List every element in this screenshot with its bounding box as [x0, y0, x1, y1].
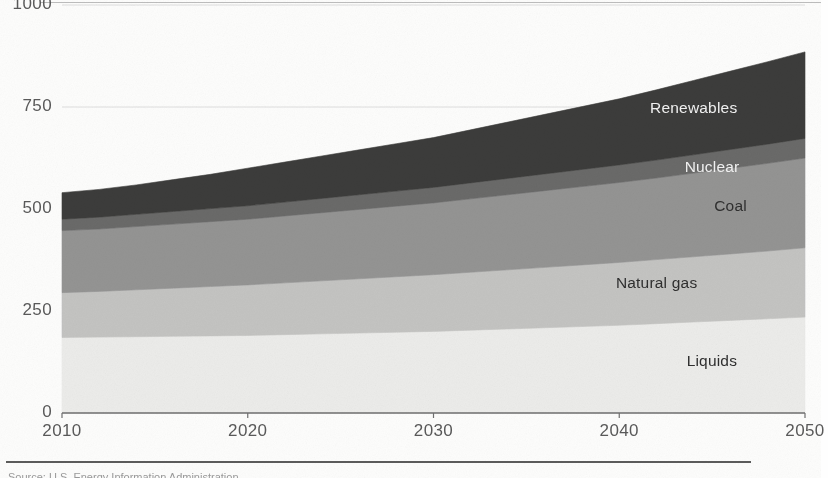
y-axis-tick-label: 250: [0, 300, 52, 320]
y-axis-tick-label: 0: [0, 402, 52, 422]
series-label-liquids: Liquids: [687, 352, 738, 370]
x-axis-tick-label: 2030: [399, 421, 469, 441]
bottom-rule: [6, 461, 751, 463]
y-axis-tick-label: 750: [0, 96, 52, 116]
series-label-nuclear: Nuclear: [685, 158, 740, 176]
y-axis-tick-label: 500: [0, 198, 52, 218]
series-label-natural-gas: Natural gas: [616, 274, 697, 292]
series-label-renewables: Renewables: [650, 99, 737, 117]
x-axis-tick-label: 2040: [584, 421, 654, 441]
x-axis-tick-label: 2010: [27, 421, 97, 441]
x-axis-tick-label: 2050: [770, 421, 828, 441]
source-note: Source: U.S. Energy Information Administ…: [8, 466, 239, 478]
x-axis-tick-label: 2020: [213, 421, 283, 441]
series-label-coal: Coal: [714, 197, 747, 215]
y-axis-tick-label: 1000: [0, 0, 52, 14]
